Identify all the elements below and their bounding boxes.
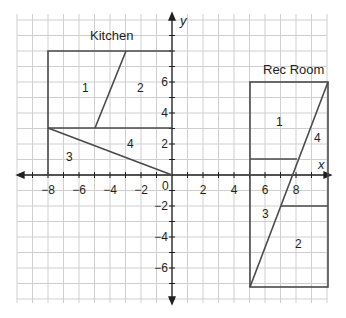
x-tick-label: −6 xyxy=(72,183,86,197)
y-tick-label: 6 xyxy=(161,75,168,89)
origin-label: 0 xyxy=(162,179,169,193)
y-tick-label: −6 xyxy=(154,261,168,275)
coordinate-plane: Kitchen 1 2 3 4 Rec Room 1 2 3 4 x y 0 −… xyxy=(0,0,346,318)
kitchen-region-4: 4 xyxy=(127,137,134,151)
x-tick-label: 8 xyxy=(293,183,300,197)
x-tick-label: −2 xyxy=(134,183,148,197)
y-tick-label: 2 xyxy=(161,137,168,151)
x-tick-label: −8 xyxy=(41,183,55,197)
x-tick-label: 6 xyxy=(262,183,269,197)
kitchen-region-2: 2 xyxy=(137,81,144,95)
y-axis-up-arrow-icon xyxy=(169,13,175,20)
y-axis-down-arrow-icon xyxy=(169,297,175,304)
kitchen-title: Kitchen xyxy=(90,28,133,43)
y-tick-label: 4 xyxy=(161,106,168,120)
x-tick-label: −4 xyxy=(103,183,117,197)
kitchen-region-3: 3 xyxy=(66,150,73,164)
rec-room-region-3: 3 xyxy=(262,207,269,221)
y-tick-label: −4 xyxy=(154,230,168,244)
x-tick-label: 4 xyxy=(231,183,238,197)
rec-room-title: Rec Room xyxy=(263,62,324,77)
kitchen-region-1: 1 xyxy=(82,81,89,95)
x-tick-label: 2 xyxy=(200,183,207,197)
rec-room-region-4: 4 xyxy=(314,131,321,145)
rec-room-region-1: 1 xyxy=(276,115,283,129)
y-tick-label: −2 xyxy=(154,199,168,213)
x-axis-left-arrow-icon xyxy=(17,172,24,178)
x-axis-label: x xyxy=(317,157,325,172)
rec-room-region-2: 2 xyxy=(295,237,302,251)
